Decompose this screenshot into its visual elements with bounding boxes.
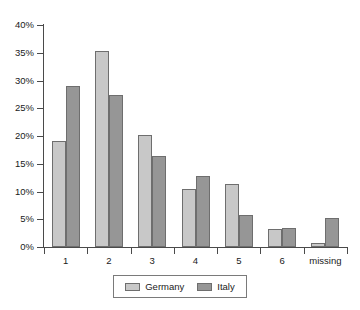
y-axis-tick-label: 20% (4, 131, 34, 141)
legend-label: Italy (217, 282, 234, 292)
y-axis-tick (37, 192, 43, 193)
bar-germany-1 (52, 141, 66, 247)
x-axis-tick-label: 5 (236, 256, 241, 266)
y-axis-tick-label: 10% (4, 187, 34, 197)
legend-item-germany: Germany (125, 282, 184, 292)
legend-label: Germany (145, 282, 184, 292)
y-axis-tick (37, 164, 43, 165)
y-axis-tick-label: 5% (4, 215, 34, 225)
x-axis-tick-label: 4 (193, 256, 198, 266)
legend-swatch-germany-icon (125, 283, 140, 291)
plot-area (44, 25, 347, 247)
x-axis-tick-label: 2 (106, 256, 111, 266)
bar-germany-5 (225, 184, 239, 247)
bar-germany-missing (311, 243, 325, 247)
chart-legend: GermanyItaly (113, 275, 247, 298)
bar-chart: 0%5%10%15%20%25%30%35%40% 123456missing … (0, 0, 360, 310)
x-axis-tick (260, 248, 261, 254)
legend-swatch-italy-icon (197, 283, 212, 291)
x-axis-tick-label: 6 (279, 256, 284, 266)
y-axis-tick-label: 15% (4, 159, 34, 169)
y-axis-tick (37, 247, 43, 248)
y-axis-tick-label: 30% (4, 76, 34, 86)
x-axis-tick (87, 248, 88, 254)
y-axis-tick-label: 25% (4, 104, 34, 114)
y-axis-tick-label: 40% (4, 20, 34, 30)
x-axis-tick (217, 248, 218, 254)
y-axis-tick (37, 219, 43, 220)
x-axis-tick (174, 248, 175, 254)
y-axis-tick (37, 53, 43, 54)
bar-italy-2 (109, 95, 123, 247)
legend-item-italy: Italy (197, 282, 234, 292)
bar-italy-5 (239, 215, 253, 247)
x-axis-tick (44, 248, 45, 254)
y-axis-tick (37, 136, 43, 137)
bar-germany-2 (95, 51, 109, 247)
y-axis-tick (37, 25, 43, 26)
x-axis-tick (131, 248, 132, 254)
y-axis-tick (37, 81, 43, 82)
bar-italy-1 (66, 86, 80, 247)
x-axis-tick (304, 248, 305, 254)
bar-italy-4 (196, 176, 210, 247)
x-axis-line (37, 247, 348, 248)
y-axis-tick (37, 108, 43, 109)
x-axis-tick (347, 248, 348, 254)
bar-italy-6 (282, 228, 296, 247)
bar-germany-3 (138, 135, 152, 247)
bar-italy-missing (325, 218, 339, 247)
x-axis-tick-label: 1 (63, 256, 68, 266)
y-axis-tick-label: 35% (4, 48, 34, 58)
bar-germany-4 (182, 189, 196, 247)
x-axis-tick-label: 3 (150, 256, 155, 266)
bar-italy-3 (152, 156, 166, 247)
bar-germany-6 (268, 229, 282, 247)
y-axis-tick-label: 0% (4, 242, 34, 252)
x-axis-tick-label: missing (309, 256, 341, 266)
